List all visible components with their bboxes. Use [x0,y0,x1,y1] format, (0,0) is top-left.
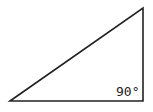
right-angle-label: 90° [116,85,139,99]
